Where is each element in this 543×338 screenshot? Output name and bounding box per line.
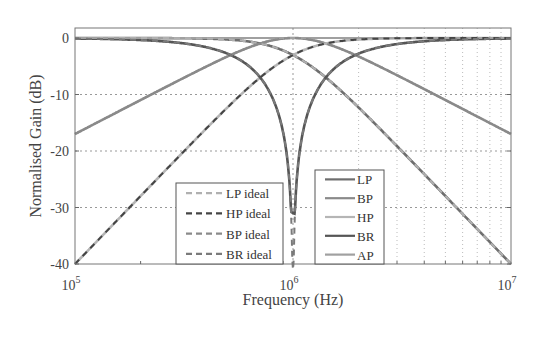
y-axis-label: Normalised Gain (dB)	[27, 74, 45, 217]
legend-label: BP	[357, 191, 373, 206]
legend-label: BP ideal	[226, 227, 270, 242]
x-tick-label: 107	[498, 274, 517, 293]
y-tick-label: 0	[62, 31, 69, 46]
legend-label: BR	[357, 229, 375, 244]
y-tick-label: -40	[50, 257, 69, 272]
y-tick-label: -20	[50, 144, 69, 159]
legend-label: LP	[357, 172, 372, 187]
legend-label: BR ideal	[226, 247, 272, 262]
y-tick-label: -30	[50, 201, 69, 216]
y-tick-label: -10	[50, 88, 69, 103]
x-tick-label: 105	[62, 274, 81, 293]
legend-actual: LPBPHPBRAP	[315, 170, 384, 264]
legend-label: HP ideal	[226, 206, 271, 221]
legend-label: LP ideal	[226, 186, 270, 201]
legend-label: AP	[357, 248, 374, 263]
bode-plot-chart: 0-10-20-30-40 105106107 Frequency (Hz) N…	[0, 0, 543, 338]
legend-ideal: LP idealHP idealBP idealBR ideal	[176, 183, 283, 264]
x-axis-label: Frequency (Hz)	[243, 291, 344, 309]
x-axis-ticks: 105106107	[62, 261, 517, 293]
legend-label: HP	[357, 210, 374, 225]
grid-lines	[75, 28, 511, 264]
